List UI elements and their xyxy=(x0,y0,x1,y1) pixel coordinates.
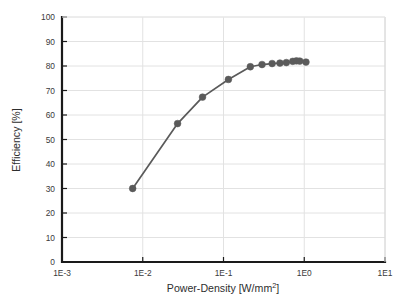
y-tick-label: 30 xyxy=(46,184,56,194)
x-tick-label: 1E1 xyxy=(378,268,393,278)
data-point xyxy=(303,59,310,66)
x-tick-label: 1E-1 xyxy=(215,268,233,278)
x-tick-label: 1E0 xyxy=(297,268,312,278)
efficiency-vs-power-density-chart: 1E-31E-21E-11E01E1 010203040506070809010… xyxy=(0,0,406,307)
x-axis-title: Power-Density [W/mm2] xyxy=(167,281,279,294)
data-point xyxy=(199,94,206,101)
data-point xyxy=(129,185,136,192)
data-point xyxy=(283,59,290,66)
y-tick-label: 60 xyxy=(46,110,56,120)
y-tick-label: 70 xyxy=(46,86,56,96)
data-point xyxy=(259,61,266,68)
y-tick-label: 80 xyxy=(46,61,56,71)
data-point xyxy=(225,76,232,83)
data-point xyxy=(247,63,254,70)
data-point xyxy=(277,60,284,67)
data-point xyxy=(296,58,303,65)
y-tick-label: 0 xyxy=(50,257,55,267)
y-tick-label: 40 xyxy=(46,159,56,169)
y-tick-label: 20 xyxy=(46,208,56,218)
y-tick-label: 50 xyxy=(46,135,56,145)
data-point xyxy=(174,120,181,127)
chart-figure: 1E-31E-21E-11E01E1 010203040506070809010… xyxy=(0,0,406,307)
y-tick-label: 100 xyxy=(41,12,55,22)
y-tick-label: 10 xyxy=(46,233,56,243)
x-tick-label: 1E-2 xyxy=(134,268,152,278)
y-axis-title: Efficiency [%] xyxy=(10,108,22,171)
y-tick-label: 90 xyxy=(46,37,56,47)
data-point xyxy=(269,60,276,67)
x-tick-label: 1E-3 xyxy=(53,268,71,278)
